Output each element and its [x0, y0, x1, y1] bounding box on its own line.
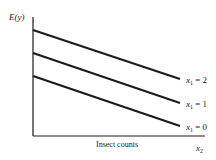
- y-axis-label: E(y): [9, 13, 25, 22]
- plot-area: [0, 0, 216, 160]
- line-x1-1: [33, 53, 180, 103]
- x-axis-var: x2: [196, 144, 203, 154]
- x-axis-label: Insect counts: [96, 141, 138, 149]
- line-x1-0: [33, 76, 180, 126]
- legend-x1-2: x1 = 2: [186, 76, 207, 86]
- legend-x1-1: x1 = 1: [186, 100, 207, 110]
- legend-x1-0: x1 = 0: [186, 123, 207, 133]
- line-x1-2: [33, 30, 180, 79]
